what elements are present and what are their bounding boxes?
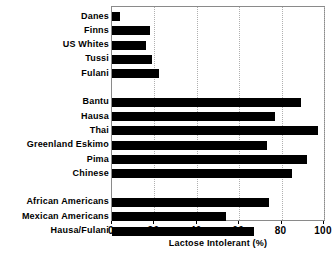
- bar: [112, 26, 150, 35]
- bar: [112, 69, 159, 78]
- category-label: Greenland Eskimo: [0, 140, 109, 149]
- x-tick-label: 0: [108, 225, 114, 236]
- bar: [112, 212, 226, 221]
- x-tick-mark: [238, 221, 239, 224]
- category-label: African Americans: [0, 197, 109, 206]
- category-label: Danes: [0, 12, 109, 21]
- category-label: Finns: [0, 26, 109, 35]
- bar: [112, 55, 152, 64]
- x-tick-label: 100: [314, 225, 332, 236]
- x-axis-title: Lactose Intolerant (%): [111, 238, 325, 248]
- bar: [112, 41, 146, 50]
- x-tick-label: 40: [190, 225, 202, 236]
- bar: [112, 126, 318, 135]
- category-label: Bantu: [0, 97, 109, 106]
- x-tick-label: 80: [275, 225, 287, 236]
- x-tick-mark: [196, 221, 197, 224]
- category-label: Chinese: [0, 169, 109, 178]
- category-label: Fulani: [0, 69, 109, 78]
- bar: [112, 12, 120, 21]
- bar: [112, 98, 301, 107]
- bar: [112, 198, 269, 207]
- category-label: Pima: [0, 155, 109, 164]
- bar: [112, 169, 292, 178]
- category-label: US Whites: [0, 40, 109, 49]
- x-tick-label: 60: [232, 225, 244, 236]
- gridline-100: [324, 7, 326, 220]
- category-label: Hausa: [0, 112, 109, 121]
- x-tick-mark: [153, 221, 154, 224]
- bar: [112, 141, 267, 150]
- x-tick-mark: [323, 221, 324, 224]
- x-tick-label: 20: [148, 225, 160, 236]
- bar: [112, 155, 307, 164]
- gridline-80: [282, 7, 284, 220]
- x-tick-mark: [111, 221, 112, 224]
- lactose-intolerance-bar-chart: DanesFinnsUS WhitesTussiFulaniBantuHausa…: [0, 0, 336, 259]
- plot-area: [111, 6, 325, 221]
- bar: [112, 112, 275, 121]
- category-label: Tussi: [0, 54, 109, 63]
- x-tick-mark: [281, 221, 282, 224]
- category-label-column: DanesFinnsUS WhitesTussiFulaniBantuHausa…: [0, 6, 109, 221]
- x-axis: 020406080100: [0, 221, 336, 235]
- category-label: Thai: [0, 126, 109, 135]
- category-label: Mexican Americans: [0, 212, 109, 221]
